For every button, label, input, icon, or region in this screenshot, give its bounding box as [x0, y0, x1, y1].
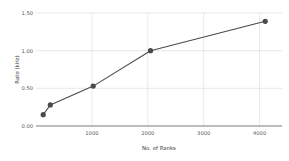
y-tick-label: 1.50 — [21, 10, 33, 16]
data-point — [48, 102, 53, 107]
x-tick-label: 2000 — [141, 130, 154, 136]
line-chart: 0.00 0.50 1.00 1.50 1000 2000 3000 4000 … — [0, 0, 289, 161]
x-tick-label: 1000 — [85, 130, 98, 136]
y-tick-label: 0.00 — [21, 123, 33, 129]
data-point — [148, 48, 153, 53]
y-tick-label: 1.00 — [21, 48, 33, 54]
x-tick-label: 4000 — [253, 130, 266, 136]
x-tick-label: 3000 — [197, 130, 210, 136]
data-point — [263, 19, 268, 24]
chart-figure: 0.00 0.50 1.00 1.50 1000 2000 3000 4000 … — [0, 0, 289, 161]
y-axis-title: Rate (kHz) — [14, 55, 20, 83]
y-tick-label: 0.50 — [21, 85, 33, 91]
x-axis-title: No. of Ranks — [142, 145, 176, 151]
data-point — [91, 84, 96, 89]
figure-background — [0, 0, 289, 161]
data-point — [41, 112, 46, 117]
